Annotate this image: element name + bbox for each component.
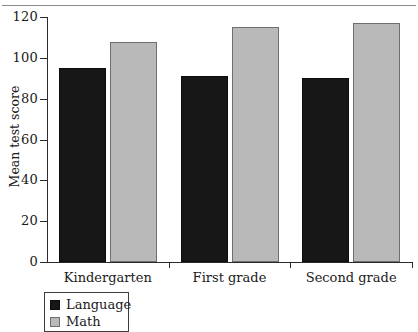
bar-math-second-grade bbox=[353, 23, 400, 262]
bar-language-first-grade bbox=[181, 76, 228, 262]
legend-item-language: Language bbox=[50, 296, 123, 313]
y-tick-mark bbox=[40, 58, 48, 59]
y-tick-label-text: 120 bbox=[2, 10, 38, 23]
legend: LanguageMath bbox=[44, 292, 129, 332]
y-tick-label: 0 bbox=[0, 255, 38, 268]
y-tick-label-text: 100 bbox=[2, 51, 38, 64]
y-tick-label-text: 60 bbox=[2, 133, 38, 146]
y-tick-label: 20 bbox=[0, 214, 38, 227]
x-tick-mark bbox=[290, 262, 291, 268]
x-category-label: First grade bbox=[169, 270, 291, 285]
y-tick-mark bbox=[40, 99, 48, 100]
y-tick-label-text: 40 bbox=[2, 173, 38, 186]
bar-math-first-grade bbox=[232, 27, 279, 262]
y-tick-mark bbox=[40, 140, 48, 141]
x-tick-mark bbox=[412, 262, 413, 268]
y-tick-label: 60 bbox=[0, 133, 38, 146]
y-tick-label-text: 20 bbox=[2, 214, 38, 227]
x-tick-mark bbox=[169, 262, 170, 268]
y-tick-label: 40 bbox=[0, 173, 38, 186]
x-category-label: Kindergarten bbox=[47, 270, 169, 285]
y-tick-label-text: 0 bbox=[2, 255, 38, 268]
y-tick-mark bbox=[40, 17, 48, 18]
y-tick-label-text: 80 bbox=[2, 92, 38, 105]
legend-item-math: Math bbox=[50, 313, 123, 330]
y-tick-mark bbox=[40, 262, 48, 263]
legend-swatch-icon bbox=[50, 317, 60, 327]
bar-language-second-grade bbox=[302, 78, 349, 262]
x-axis-line bbox=[47, 262, 412, 263]
legend-swatch-icon bbox=[50, 300, 60, 310]
y-tick-label: 120 bbox=[0, 10, 38, 23]
bar-math-kindergarten bbox=[110, 42, 157, 263]
y-tick-mark bbox=[40, 180, 48, 181]
legend-item-label: Math bbox=[66, 315, 101, 329]
bar-language-kindergarten bbox=[59, 68, 106, 262]
legend-item-label: Language bbox=[66, 298, 131, 312]
x-category-label: Second grade bbox=[290, 270, 412, 285]
y-tick-label: 100 bbox=[0, 51, 38, 64]
y-tick-label: 80 bbox=[0, 92, 38, 105]
plot-area: Mean test score 020406080100120 Kinderga… bbox=[0, 0, 418, 276]
y-tick-mark bbox=[40, 221, 48, 222]
